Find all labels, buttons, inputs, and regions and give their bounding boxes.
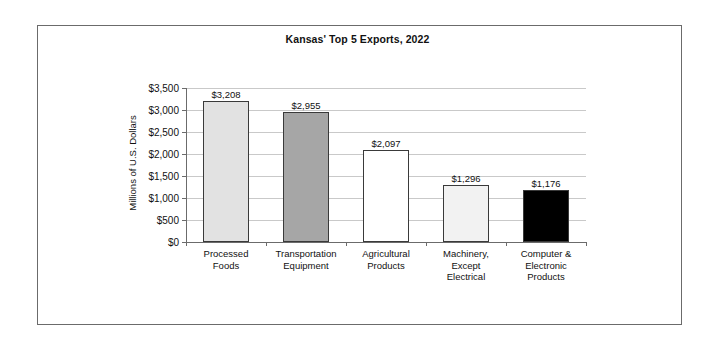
- x-axis-line: [186, 242, 586, 243]
- x-tick-mark: [266, 242, 267, 246]
- bar: $2,097: [363, 150, 409, 242]
- x-category-label-line: Computer &: [498, 248, 594, 260]
- bar-value-label: $2,097: [371, 138, 400, 149]
- chart-title: Kansas' Top 5 Exports, 2022: [0, 33, 715, 45]
- x-tick-mark: [186, 242, 187, 246]
- bar-value-label: $1,296: [451, 173, 480, 184]
- y-tick-label: $1,500: [148, 171, 179, 182]
- x-tick-mark: [586, 242, 587, 246]
- x-tick-mark: [426, 242, 427, 246]
- x-category-label: Computer &ElectronicProducts: [498, 248, 594, 283]
- bar: $3,208: [203, 101, 249, 242]
- y-tick-mark: [182, 220, 186, 221]
- y-tick-label: $2,000: [148, 149, 179, 160]
- y-tick-mark: [182, 88, 186, 89]
- y-tick-mark: [182, 198, 186, 199]
- x-category-label-line: Products: [498, 271, 594, 283]
- bar-value-label: $2,955: [291, 100, 320, 111]
- y-axis-line: [186, 88, 187, 242]
- y-tick-mark: [182, 132, 186, 133]
- y-tick-mark: [182, 176, 186, 177]
- y-tick-label: $500: [157, 215, 179, 226]
- y-tick-label: $3,000: [148, 105, 179, 116]
- y-tick-label: $0: [168, 237, 179, 248]
- gridline: [186, 88, 586, 89]
- plot-area: $0$500$1,000$1,500$2,000$2,500$3,000$3,5…: [186, 88, 586, 242]
- y-tick-label: $3,500: [148, 83, 179, 94]
- bar: $2,955: [283, 112, 329, 242]
- y-axis-title: Millions of U.S. Dollars: [126, 88, 140, 238]
- y-tick-mark: [182, 110, 186, 111]
- x-tick-mark: [506, 242, 507, 246]
- y-tick-label: $2,500: [148, 127, 179, 138]
- bar: $1,176: [523, 190, 569, 242]
- bar-value-label: $1,176: [531, 178, 560, 189]
- y-tick-mark: [182, 154, 186, 155]
- y-tick-label: $1,000: [148, 193, 179, 204]
- x-category-label-line: Electronic: [498, 260, 594, 272]
- bar-value-label: $3,208: [211, 89, 240, 100]
- bar: $1,296: [443, 185, 489, 242]
- x-tick-mark: [346, 242, 347, 246]
